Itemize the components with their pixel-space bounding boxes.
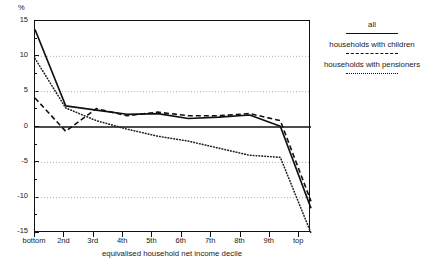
y-tick-label-5: 5 [4,86,28,94]
y-tick-label-0: 0 [4,122,28,130]
legend-sample-children-dashed [316,51,428,57]
y-tick-label-neg15: -15 [4,227,28,235]
legend-entry-children: households with children [316,40,428,57]
legend-entry-all: all [316,20,428,37]
legend-label-children: households with children [316,40,428,50]
legend-sample-all-solid [316,31,428,37]
y-axis-unit-label: % [18,4,25,12]
legend-label-pensioners: households with pensioners [316,60,428,70]
line-chart-figure: % 15 10 5 0 -5 -10 -15 [0,0,428,276]
legend: all households with children households … [316,20,428,80]
series-line-children [35,98,311,201]
x-axis-title: equivalised household net income decile [34,249,310,258]
plot-area [34,20,310,232]
y-tick-label-15: 15 [4,16,28,24]
legend-entry-pensioners: households with pensioners [316,60,428,77]
legend-sample-pensioners-dotted [316,71,428,77]
series-canvas [35,21,311,233]
series-line-pensioners [35,58,311,233]
y-tick-label-neg5: -5 [4,157,28,165]
legend-label-all: all [316,20,428,30]
x-tick-label-top: top [278,236,318,245]
y-tick-label-10: 10 [4,51,28,59]
y-tick-label-neg10: -10 [4,192,28,200]
